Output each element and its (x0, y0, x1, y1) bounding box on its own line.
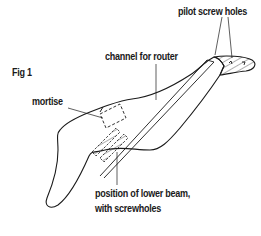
figure-title: Fig 1 (12, 65, 32, 79)
label-mortise: mortise (32, 94, 63, 108)
label-channel-for-router: channel for router (105, 49, 178, 63)
label-lower-beam-line1: position of lower beam, (95, 186, 190, 200)
mortise-dashed (100, 104, 126, 128)
figure-canvas: pilot screw holes channel for router Fig… (0, 0, 261, 236)
leader-pilot-right (228, 17, 232, 58)
channel-line-lower (104, 62, 214, 178)
head-hatched-region (214, 56, 255, 75)
label-pilot-screw-holes: pilot screw holes (178, 4, 247, 18)
label-lower-beam-line2: with screwholes (95, 201, 161, 215)
leader-pilot-left (215, 17, 222, 55)
channel-line-upper (100, 60, 207, 176)
